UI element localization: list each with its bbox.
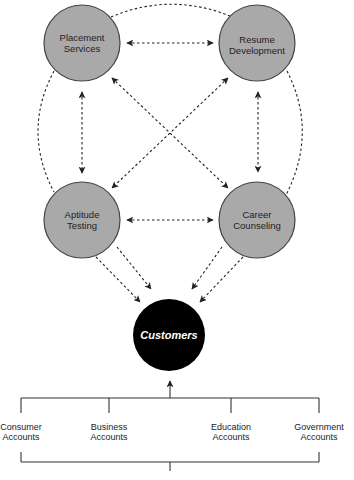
arrow-career-customers-inner: [192, 247, 222, 289]
account-label-line2: Accounts: [90, 432, 128, 442]
arrow-career-customers-outer: [200, 257, 243, 302]
node-aptitude-testing: Aptitude Testing: [44, 182, 120, 258]
arrow-aptitude-customers-outer: [96, 257, 140, 302]
node-placement-services: Placement Services: [44, 5, 120, 81]
account-label-line1: Education: [211, 422, 251, 432]
account-education: Education Accounts: [211, 422, 251, 442]
node-label-line2: Counseling: [233, 220, 281, 231]
node-label-line1: Aptitude: [65, 209, 100, 220]
node-label-line2: Services: [64, 43, 101, 54]
node-label-line2: Development: [229, 45, 285, 56]
accounts-bracket-top: [21, 398, 319, 413]
node-career-counseling: Career Counseling: [219, 182, 295, 258]
account-consumer: Consumer Accounts: [0, 422, 42, 442]
accounts-bracket-bottom: [21, 452, 319, 471]
account-government: Government Accounts: [294, 422, 344, 442]
account-label-line1: Consumer: [0, 422, 42, 432]
account-label-line2: Accounts: [300, 432, 338, 442]
node-label-line1: Career: [242, 209, 271, 220]
arc-top: [111, 4, 230, 17]
node-label-line2: Testing: [67, 220, 97, 231]
customers-label: Customers: [140, 329, 197, 341]
node-label-line1: Placement: [60, 32, 105, 43]
arc-right: [286, 71, 302, 195]
arc-left: [38, 71, 54, 192]
node-resume-development: Resume Development: [219, 5, 295, 81]
service-customer-diagram: Placement Services Resume Development Ap…: [0, 0, 354, 480]
arrow-aptitude-customers-inner: [117, 247, 151, 289]
node-label-line1: Resume: [239, 34, 274, 45]
account-label-line2: Accounts: [2, 432, 40, 442]
account-business: Business Accounts: [90, 422, 128, 442]
account-label-line1: Business: [91, 422, 128, 432]
account-label-line1: Government: [294, 422, 344, 432]
account-label-line2: Accounts: [212, 432, 250, 442]
node-customers: Customers: [133, 299, 205, 371]
